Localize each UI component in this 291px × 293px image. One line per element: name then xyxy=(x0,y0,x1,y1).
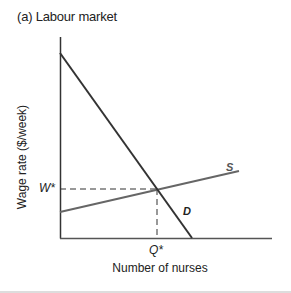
x-axis-label: Number of nurses xyxy=(95,261,225,275)
q-star-label: Q* xyxy=(149,243,163,257)
y-axis-label: Wage rate ($/week) xyxy=(15,97,29,217)
w-star-label: W* xyxy=(39,181,55,195)
chart-plot xyxy=(0,0,291,293)
demand-curve xyxy=(60,53,192,238)
demand-label: D xyxy=(183,205,191,217)
supply-label: S xyxy=(226,161,233,173)
